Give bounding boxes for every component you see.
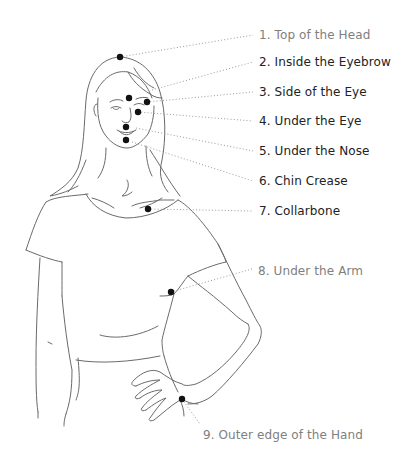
leader-line-5 bbox=[136, 128, 253, 151]
tapping-point-dots bbox=[117, 54, 185, 402]
figure-outline bbox=[26, 57, 261, 426]
point-dot-8 bbox=[168, 289, 174, 295]
point-dot-5 bbox=[123, 124, 129, 130]
point-dot-9 bbox=[179, 396, 185, 402]
label-outer-edge-hand: 9. Outer edge of the Hand bbox=[203, 428, 363, 442]
label-top-of-head: 1. Top of the Head bbox=[259, 28, 370, 42]
label-inside-eyebrow: 2. Inside the Eyebrow bbox=[259, 55, 391, 69]
leader-lines bbox=[120, 35, 253, 424]
point-dot-3 bbox=[144, 99, 150, 105]
point-dot-7 bbox=[145, 206, 151, 212]
label-side-of-eye: 3. Side of the Eye bbox=[259, 85, 367, 99]
leader-line-3 bbox=[147, 92, 253, 102]
label-collarbone: 7. Collarbone bbox=[259, 204, 340, 218]
point-dot-4 bbox=[135, 109, 141, 115]
leader-line-4 bbox=[138, 112, 253, 121]
leader-line-1 bbox=[120, 35, 253, 57]
point-dot-6 bbox=[123, 137, 129, 143]
point-dot-2 bbox=[126, 95, 132, 101]
leader-line-2 bbox=[152, 62, 253, 90]
point-dot-1 bbox=[117, 54, 123, 60]
label-under-arm: 8. Under the Arm bbox=[258, 264, 363, 278]
figure-illustration bbox=[0, 0, 406, 466]
label-under-eye: 4. Under the Eye bbox=[259, 114, 362, 128]
leader-line-6 bbox=[132, 142, 253, 181]
tapping-points-diagram: 1. Top of the Head 2. Inside the Eyebrow… bbox=[0, 0, 406, 466]
label-under-nose: 5. Under the Nose bbox=[259, 144, 370, 158]
label-chin-crease: 6. Chin Crease bbox=[259, 174, 348, 188]
